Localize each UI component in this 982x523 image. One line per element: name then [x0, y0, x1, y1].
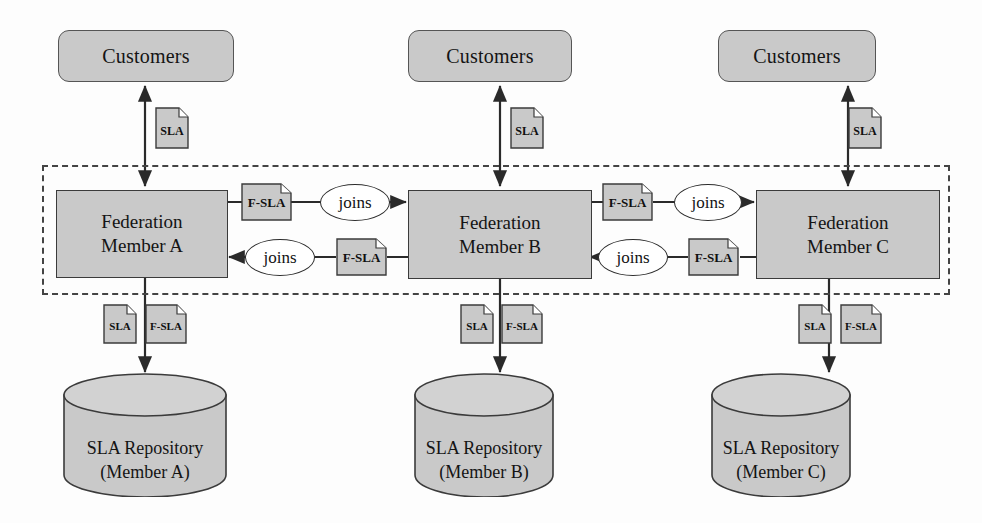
federation-member-b-box[interactable]: Federation Member B	[408, 190, 592, 279]
federation-member-c-line1: Federation	[807, 211, 888, 235]
sla-repository-b[interactable]: SLA Repository (Member B)	[413, 373, 555, 497]
joins-ellipse-cb-bottom[interactable]: joins	[598, 239, 668, 276]
federation-member-b-line1: Federation	[459, 211, 540, 235]
sla-doc-icon-customers-b: SLA	[510, 107, 544, 149]
diagram-canvas: Customers SLA Federation Member A SLA F-…	[0, 0, 982, 523]
federation-member-a-line1: Federation	[101, 210, 182, 234]
fsla-doc-icon-link-ba-bottom: F-SLA	[336, 238, 387, 276]
joins-label-ba-bottom: joins	[263, 248, 296, 268]
joins-ellipse-ab-top[interactable]: joins	[320, 184, 390, 221]
customers-label-c: Customers	[753, 45, 840, 68]
customers-box-a[interactable]: Customers	[58, 30, 234, 82]
fsla-doc-icon-repo-c: F-SLA	[840, 304, 882, 344]
customers-box-c[interactable]: Customers	[718, 30, 876, 82]
joins-label-ab-top: joins	[338, 193, 371, 213]
sla-repository-c[interactable]: SLA Repository (Member C)	[710, 373, 852, 497]
customers-label-b: Customers	[446, 45, 533, 68]
customers-box-b[interactable]: Customers	[408, 30, 572, 82]
fsla-doc-icon-repo-b: F-SLA	[501, 304, 543, 344]
joins-ellipse-bc-top[interactable]: joins	[674, 184, 742, 221]
federation-member-c-line2: Member C	[807, 235, 889, 259]
customers-label-a: Customers	[102, 45, 189, 68]
federation-member-b-line2: Member B	[459, 235, 541, 259]
federation-member-c-box[interactable]: Federation Member C	[756, 190, 940, 279]
federation-member-a-line2: Member A	[101, 234, 183, 258]
fsla-doc-icon-link-cb-bottom: F-SLA	[688, 238, 739, 276]
joins-ellipse-ba-bottom[interactable]: joins	[245, 239, 315, 276]
fsla-doc-icon-link-bc-top: F-SLA	[602, 183, 653, 221]
sla-doc-icon-customers-a: SLA	[155, 107, 189, 149]
joins-label-cb-bottom: joins	[616, 248, 649, 268]
joins-label-bc-top: joins	[691, 193, 724, 213]
sla-repository-a[interactable]: SLA Repository (Member A)	[62, 373, 228, 497]
sla-doc-icon-repo-c: SLA	[798, 304, 832, 344]
sla-doc-icon-customers-c: SLA	[848, 107, 882, 149]
federation-member-a-box[interactable]: Federation Member A	[56, 190, 228, 278]
sla-doc-icon-repo-a: SLA	[103, 304, 137, 344]
fsla-doc-icon-repo-a: F-SLA	[145, 304, 187, 344]
fsla-doc-icon-link-ab-top: F-SLA	[241, 183, 292, 221]
sla-doc-icon-repo-b: SLA	[460, 304, 494, 344]
